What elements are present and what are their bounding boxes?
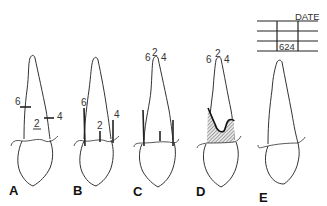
panel-label-a: A xyxy=(9,183,19,198)
reading-distal: 6 xyxy=(81,97,87,108)
reading-mesial: 4 xyxy=(114,109,120,120)
reading-mesial: 4 xyxy=(224,54,230,65)
tooth-crown-outline xyxy=(139,142,175,187)
tooth-root-outline xyxy=(144,56,173,140)
panel-a: 6 2 4 A xyxy=(9,55,63,198)
tooth-crown-outline xyxy=(80,140,113,186)
periodontal-probing-figure: 6 2 4 A 6 2 4 B 6 2 4 C 6 2 4 xyxy=(0,0,327,206)
reading-mesial: 4 xyxy=(161,52,167,63)
panel-e: E xyxy=(258,60,305,205)
reading-middle: 2 xyxy=(97,120,103,131)
reading-mesial: 4 xyxy=(57,111,63,122)
panel-label-b: B xyxy=(73,183,82,198)
chart-value-readings: 624 xyxy=(279,41,295,52)
reading-distal: 6 xyxy=(15,96,21,107)
probe-distal xyxy=(84,108,85,146)
panel-label-d: D xyxy=(196,184,205,199)
tooth-crown-outline xyxy=(265,143,299,184)
tooth-crown-outline xyxy=(203,142,238,187)
tooth-crown-outline xyxy=(18,140,53,186)
reading-middle: 2 xyxy=(152,47,158,58)
reading-middle: 2 xyxy=(34,118,40,129)
reading-middle: 2 xyxy=(215,48,221,59)
panel-d: 6 2 4 D xyxy=(196,48,241,199)
reading-distal: 6 xyxy=(206,54,212,65)
probing-chart-record: DATE 624 xyxy=(257,11,320,52)
reading-distal: 6 xyxy=(145,52,151,63)
probe-distal xyxy=(143,110,144,146)
panel-c: 6 2 4 C xyxy=(133,47,179,199)
panel-label-e: E xyxy=(259,190,268,205)
panel-b: 6 2 4 B xyxy=(73,57,120,198)
tooth-root-outline xyxy=(268,60,298,144)
panel-label-c: C xyxy=(133,184,143,199)
chart-header-date: DATE xyxy=(295,11,320,22)
